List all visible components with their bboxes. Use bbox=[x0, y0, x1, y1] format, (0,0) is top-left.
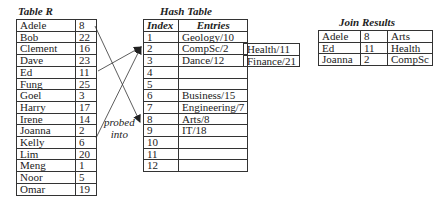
probed-into-label: probed into bbox=[104, 116, 135, 140]
probed-label-line2: into bbox=[104, 128, 135, 140]
probe-arrow-ed bbox=[98, 47, 141, 71]
probe-arrows bbox=[0, 0, 448, 208]
probed-label-line1: probed bbox=[104, 116, 135, 128]
probe-arrow-adele bbox=[95, 26, 140, 122]
